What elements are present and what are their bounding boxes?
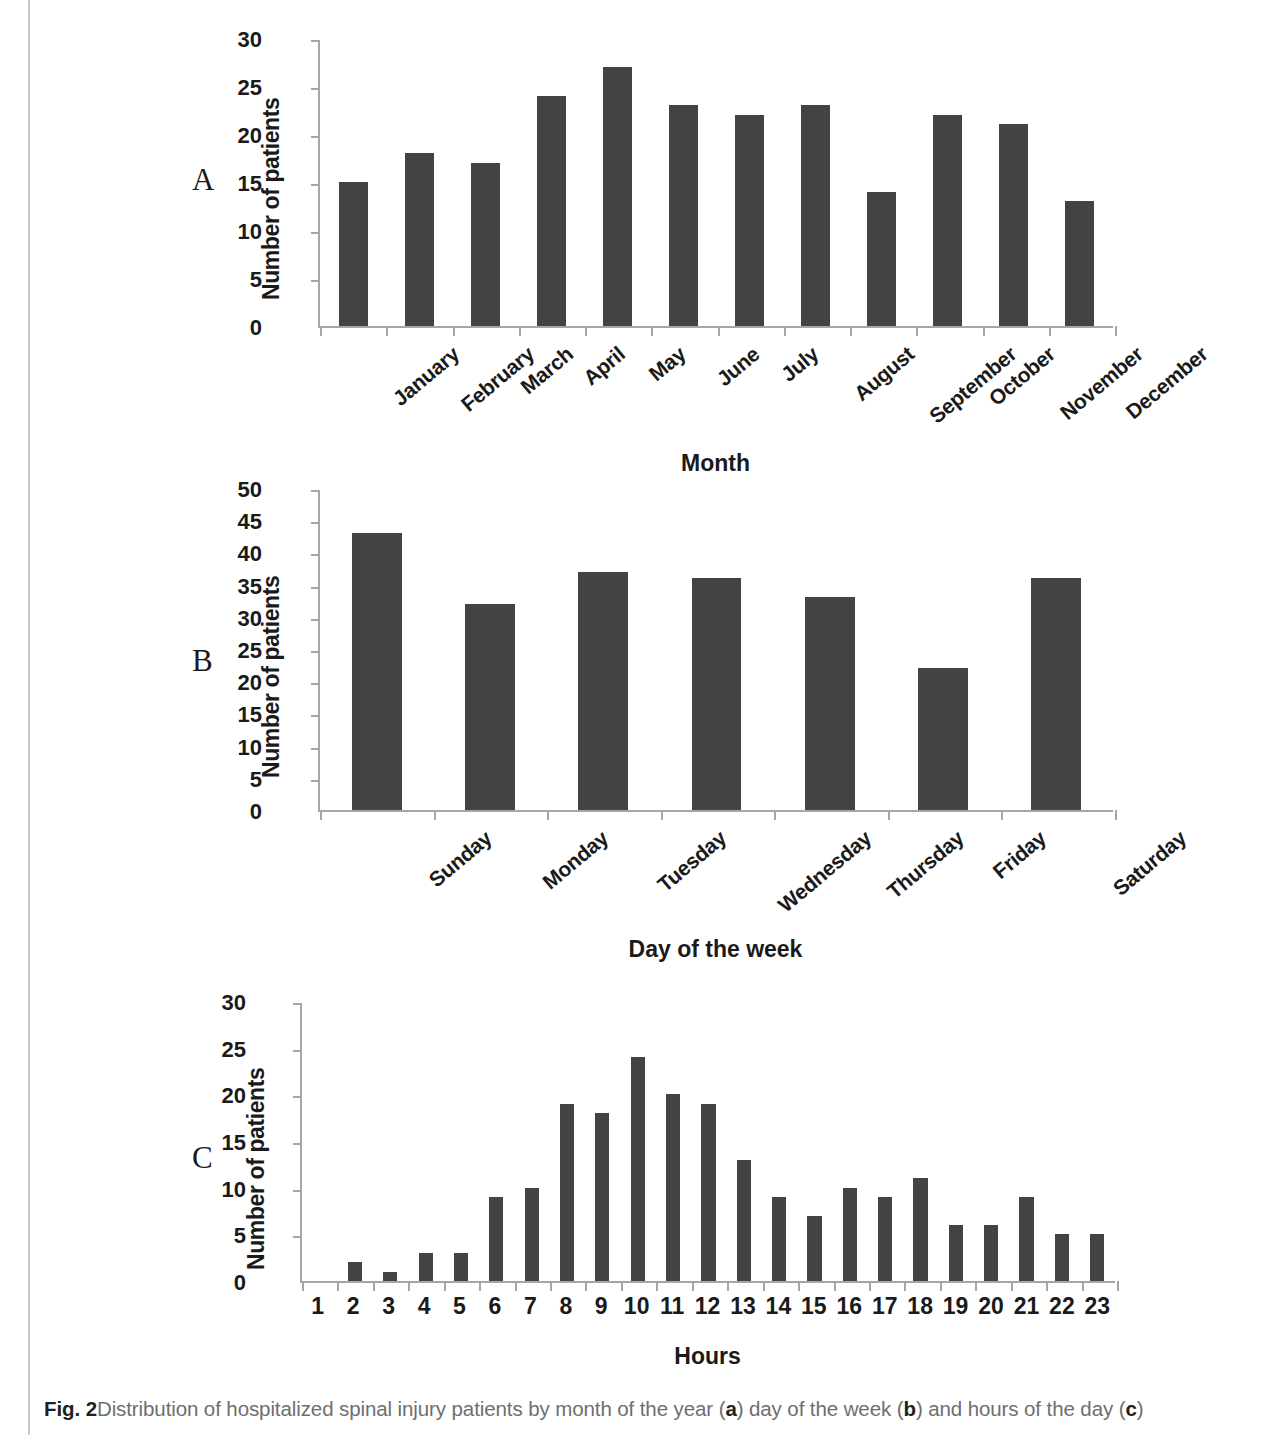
- bar-slot: [915, 40, 981, 326]
- panel-c-hours-chart: C Number of patients 051015202530 123456…: [0, 985, 1285, 1385]
- panel-c-x-tickmark: [1046, 1281, 1048, 1291]
- x-tick-label-Tuesday: Tuesday: [653, 826, 731, 897]
- panel-b-y-tickmark: [311, 587, 320, 589]
- panel-b-x-tickmark: [774, 810, 776, 820]
- panel-c-y-tick-15: 15: [222, 1132, 246, 1154]
- panel-c-y-tick-25: 25: [222, 1039, 246, 1061]
- panel-a-x-tickmark: [386, 326, 388, 336]
- bar-21: [1019, 1197, 1033, 1281]
- panel-a-y-tick-25: 25: [238, 77, 262, 99]
- panel-c-x-tickmark: [975, 1281, 977, 1291]
- panel-b-y-tick-25: 25: [238, 640, 262, 662]
- caption-ref-b: b: [903, 1397, 915, 1420]
- panel-b-y-tick-45: 45: [238, 511, 262, 533]
- x-tick-label-1: 1: [300, 1293, 335, 1320]
- bar-Tuesday: [578, 572, 628, 810]
- panel-a-x-tickmark: [320, 326, 322, 336]
- panel-c-x-tickmark: [798, 1281, 800, 1291]
- panel-c-x-tickmark: [1117, 1281, 1119, 1291]
- panel-a-x-tickmark: [585, 326, 587, 336]
- bar-8: [560, 1104, 574, 1281]
- panel-c-y-tick-30: 30: [222, 992, 246, 1014]
- bar-slot: [650, 40, 716, 326]
- panel-c-y-tickmark: [293, 1190, 302, 1192]
- bar-slot: [433, 490, 546, 810]
- panel-b-weekday-chart: B Number of patients 0510152025303540455…: [0, 478, 1285, 978]
- panel-a-y-tick-15: 15: [238, 173, 262, 195]
- panel-b-y-tickmark: [311, 683, 320, 685]
- caption-text-2: ) day of the week (: [737, 1397, 904, 1420]
- panel-c-x-tickmark: [940, 1281, 942, 1291]
- bar-Monday: [465, 604, 515, 810]
- panel-a-month-chart: A Number of patients 051015202530 Januar…: [0, 10, 1285, 480]
- panel-c-x-tickmark: [1082, 1281, 1084, 1291]
- x-tick-label-6: 6: [477, 1293, 512, 1320]
- x-tick-label-August: August: [850, 342, 919, 406]
- panel-a-y-tickmark: [311, 232, 320, 234]
- panel-c-x-tickmark: [444, 1281, 446, 1291]
- panel-b-y-tick-5: 5: [250, 769, 262, 791]
- panel-a-x-tickmark: [916, 326, 918, 336]
- panel-c-y-axis-title: Number of patients: [243, 1068, 270, 1270]
- caption-ref-c: c: [1125, 1397, 1136, 1420]
- panel-b-y-tick-labels: 05101520253035404550: [218, 490, 262, 812]
- panel-a-x-tickmark: [1115, 326, 1117, 336]
- caption-text-4: ): [1137, 1397, 1144, 1420]
- bar-13: [737, 1160, 751, 1281]
- bar-slot: [585, 1003, 620, 1281]
- panel-c-x-tickmark: [408, 1281, 410, 1291]
- bar-Friday: [918, 668, 968, 810]
- panel-b-letter: B: [192, 643, 213, 679]
- bar-10: [631, 1057, 645, 1281]
- x-tick-label-5: 5: [442, 1293, 477, 1320]
- panel-c-y-tickmark: [293, 1003, 302, 1005]
- bar-slot: [386, 40, 452, 326]
- panel-b-y-tick-35: 35: [238, 576, 262, 598]
- bar-slot: [974, 1003, 1009, 1281]
- panel-a-y-tickmark: [311, 136, 320, 138]
- panel-b-y-tick-0: 0: [250, 801, 262, 823]
- panel-c-x-tickmark: [834, 1281, 836, 1291]
- panel-c-x-tickmark: [727, 1281, 729, 1291]
- panel-b-bars: [320, 490, 1113, 810]
- panel-b-y-tickmark: [311, 554, 320, 556]
- x-tick-label-July: July: [777, 342, 824, 387]
- bar-slot: [797, 1003, 832, 1281]
- x-tick-label-19: 19: [938, 1293, 973, 1320]
- bar-18: [913, 1178, 927, 1281]
- bar-March: [471, 163, 500, 326]
- bar-2: [348, 1262, 362, 1281]
- bar-slot: [726, 1003, 761, 1281]
- bar-20: [984, 1225, 998, 1281]
- x-tick-label-22: 22: [1044, 1293, 1079, 1320]
- bar-14: [772, 1197, 786, 1281]
- figure-caption: Fig. 2Distribution of hospitalized spina…: [44, 1396, 1264, 1422]
- panel-b-y-tick-40: 40: [238, 543, 262, 565]
- panel-b-plot-area: [318, 490, 1113, 812]
- bar-7: [525, 1188, 539, 1281]
- bar-15: [807, 1216, 821, 1281]
- x-tick-label-3: 3: [371, 1293, 406, 1320]
- bar-slot: [452, 40, 518, 326]
- bar-May: [603, 67, 632, 326]
- caption-text-3: ) and hours of the day (: [916, 1397, 1126, 1420]
- panel-a-y-tickmark: [311, 40, 320, 42]
- bar-11: [666, 1094, 680, 1281]
- panel-b-x-axis-title: Day of the week: [318, 936, 1113, 963]
- panel-a-y-tickmark: [311, 280, 320, 282]
- x-tick-label-16: 16: [832, 1293, 867, 1320]
- panel-c-x-tickmark: [373, 1281, 375, 1291]
- panel-a-y-tickmark: [311, 88, 320, 90]
- panel-c-y-tick-0: 0: [234, 1272, 246, 1294]
- bar-slot: [660, 490, 773, 810]
- panel-a-x-tickmark: [850, 326, 852, 336]
- panel-a-y-tick-labels: 051015202530: [218, 40, 262, 328]
- panel-b-y-tick-50: 50: [238, 479, 262, 501]
- panel-a-x-tickmark: [1049, 326, 1051, 336]
- bar-slot: [408, 1003, 443, 1281]
- bar-slot: [832, 1003, 867, 1281]
- panel-a-plot-area: [318, 40, 1113, 328]
- figure-number: Fig. 2: [44, 1397, 97, 1420]
- x-tick-label-17: 17: [867, 1293, 902, 1320]
- panel-a-x-tickmark: [983, 326, 985, 336]
